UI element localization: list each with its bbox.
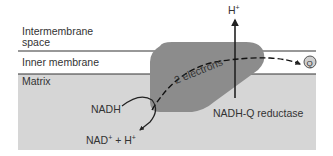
matrix-label: Matrix: [22, 75, 51, 87]
nadh-q-reductase-diagram: Intermembrane space Inner membrane Matri…: [0, 0, 333, 156]
proton-top-label: H+: [228, 4, 240, 16]
nadh-label: NADH: [91, 103, 121, 115]
inner-membrane-label: Inner membrane: [22, 56, 99, 68]
enzyme-label: NADH-Q reductase: [213, 107, 304, 119]
quinone-label: Q: [307, 59, 313, 68]
intermembrane-label-line2: space: [22, 36, 50, 48]
